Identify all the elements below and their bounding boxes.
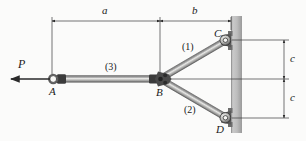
joint-label-A: A (49, 86, 56, 97)
member-label-1: (1) (182, 42, 194, 52)
load-label-P: P (18, 58, 25, 70)
member-label-3: (3) (105, 62, 117, 72)
joint-label-B: B (156, 87, 163, 98)
diagram-canvas (0, 0, 306, 141)
dimension-label-c-lower: c (290, 92, 295, 103)
fixed-support-wall (231, 16, 242, 133)
member-3-bar (55, 76, 158, 83)
dimension-lines (52, 17, 289, 118)
dimension-label-c-upper: c (290, 53, 295, 64)
truss-free-body-diagram: P A B C D (1) (2) (3) a b c c (0, 0, 306, 141)
joint-label-D: D (216, 124, 224, 135)
joint-C-pin (220, 31, 233, 50)
joint-label-C: C (214, 28, 221, 39)
member-label-2: (2) (184, 105, 196, 115)
dimension-label-b: b (192, 5, 198, 16)
dimension-label-a: a (102, 5, 108, 16)
